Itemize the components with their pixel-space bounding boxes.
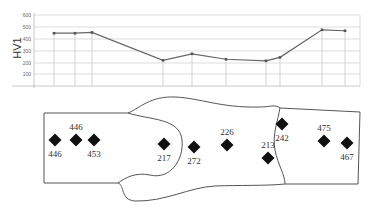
y-tick-600: 600	[23, 12, 32, 18]
y-axis-label: HV1	[11, 37, 23, 58]
indentation-diamond-icon	[221, 139, 234, 152]
y-tick-100: 100	[23, 71, 32, 77]
hardness-series-markers	[53, 28, 347, 62]
data-point-marker	[53, 32, 56, 35]
hardness-value-label: 475	[317, 123, 331, 133]
weld-outline	[44, 97, 360, 201]
indentation-diamond-icon	[341, 137, 354, 150]
y-tick-400: 400	[23, 36, 32, 42]
data-point-marker	[344, 29, 347, 32]
y-tick-300: 300	[23, 48, 32, 54]
data-point-marker	[279, 56, 282, 59]
data-point-marker	[91, 31, 94, 34]
indentation-labels: 446446453217272226213242475467	[48, 122, 354, 166]
hardness-series-line	[54, 30, 345, 61]
indentation-diamond-icon	[49, 134, 62, 147]
hardness-value-label: 453	[87, 149, 101, 159]
gridlines	[34, 15, 360, 86]
hardness-value-label: 213	[261, 140, 275, 150]
fusion-line-right	[274, 108, 285, 184]
data-point-marker	[265, 59, 268, 62]
hardness-value-label: 446	[48, 149, 62, 159]
data-point-marker	[191, 53, 194, 56]
hardness-value-label: 226	[220, 127, 234, 137]
indentation-diamond-icon	[262, 152, 275, 165]
indentation-diamond-icon	[276, 118, 289, 131]
indentation-diamond-icon	[318, 135, 331, 148]
y-tick-500: 500	[23, 24, 32, 30]
data-point-marker	[321, 28, 324, 31]
data-point-marker	[74, 32, 77, 35]
data-point-marker	[162, 59, 165, 62]
hardness-value-label: 446	[69, 122, 83, 132]
indentation-diamond-icon	[88, 134, 101, 147]
fusion-line-left	[118, 113, 182, 183]
data-point-marker	[225, 58, 228, 61]
hardness-line-chart: 600 500 400 300 200 100 HV1	[0, 0, 371, 95]
indentation-diamond-icon	[188, 141, 201, 154]
hardness-value-label: 467	[340, 152, 354, 162]
hardness-value-label: 272	[187, 156, 201, 166]
hardness-value-label: 242	[275, 133, 289, 143]
drop-lines	[54, 30, 345, 86]
indentation-diamond-icon	[70, 134, 83, 147]
indentation-diamond-icon	[158, 138, 171, 151]
y-tick-200: 200	[23, 60, 32, 66]
hardness-value-label: 217	[157, 153, 171, 163]
y-tick-labels: 600 500 400 300 200 100	[23, 12, 32, 77]
indentation-markers	[49, 118, 354, 165]
